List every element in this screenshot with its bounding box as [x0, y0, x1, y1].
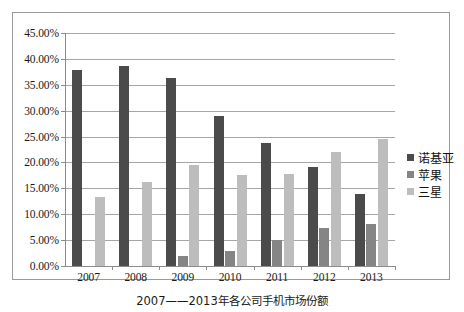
x-axis-tick-mark [348, 266, 349, 270]
bar [272, 240, 282, 266]
bar [366, 224, 376, 266]
legend-item[interactable]: 三星 [407, 183, 451, 200]
legend-item-label: 苹果 [418, 166, 442, 183]
y-axis-tick-label: 25.00% [24, 131, 59, 143]
bar-group [308, 33, 341, 266]
bar-group [166, 33, 199, 266]
bar-group [261, 33, 294, 266]
y-axis-tick-label: 20.00% [24, 156, 59, 168]
bar [119, 66, 129, 266]
plot-area [65, 33, 395, 266]
x-axis-tick-mark [254, 266, 255, 270]
bar [225, 251, 235, 266]
legend-item[interactable]: 苹果 [407, 166, 451, 183]
legend-item[interactable]: 诺基亚 [407, 149, 451, 166]
x-axis-tick-label: 2011 [266, 271, 288, 283]
x-axis-tick-label: 2009 [172, 271, 195, 283]
x-axis-tick-label: 2012 [313, 271, 336, 283]
x-axis-tick-label: 2010 [219, 271, 242, 283]
bar [214, 116, 224, 266]
x-axis-tick-mark [301, 266, 302, 270]
legend-item-label: 三星 [418, 183, 442, 200]
legend-swatch-icon [407, 171, 414, 178]
legend-swatch-icon [407, 154, 414, 161]
bar [378, 139, 388, 266]
y-axis-tick-label: 45.00% [24, 27, 59, 39]
y-axis-tick-label: 40.00% [24, 53, 59, 65]
y-axis-tick-label: 35.00% [24, 79, 59, 91]
bar-group [214, 33, 247, 266]
legend-swatch-icon [407, 188, 414, 195]
legend-item-label: 诺基亚 [418, 149, 454, 166]
bar [331, 152, 341, 266]
bar [308, 167, 318, 266]
bar-group [119, 33, 152, 266]
y-axis-labels: 0.00%5.00%10.00%15.00%20.00%25.00%30.00%… [13, 33, 59, 266]
chart-legend: 诺基亚苹果三星 [407, 149, 451, 200]
y-axis-tick-label: 30.00% [24, 105, 59, 117]
bar [72, 70, 82, 266]
bar [237, 175, 247, 266]
chart-frame: 0.00%5.00%10.00%15.00%20.00%25.00%30.00%… [12, 12, 450, 280]
bar [261, 143, 271, 266]
y-axis-tick-label: 5.00% [30, 234, 59, 246]
bar [178, 256, 188, 266]
bar [95, 197, 105, 266]
x-axis-tick-label: 2008 [124, 271, 147, 283]
bar-group [72, 33, 105, 266]
figure-caption: 2007——2013年各公司手机市场份额 [0, 292, 464, 308]
bar [284, 174, 294, 266]
bar [166, 78, 176, 266]
x-axis-tick-mark [206, 266, 207, 270]
bar [142, 182, 152, 266]
x-axis-tick-label: 2013 [360, 271, 383, 283]
gridline [65, 266, 395, 267]
x-axis-tick-mark [395, 266, 396, 270]
bar-group [355, 33, 388, 266]
y-axis-tick-mark [61, 266, 66, 267]
y-axis-tick-label: 15.00% [24, 182, 59, 194]
y-axis-tick-label: 0.00% [30, 260, 59, 272]
x-axis-tick-mark [112, 266, 113, 270]
x-axis-tick-mark [159, 266, 160, 270]
bar [189, 165, 199, 266]
bar [319, 228, 329, 266]
y-axis-tick-label: 10.00% [24, 208, 59, 220]
bar [355, 194, 365, 266]
x-axis-tick-label: 2007 [77, 271, 100, 283]
